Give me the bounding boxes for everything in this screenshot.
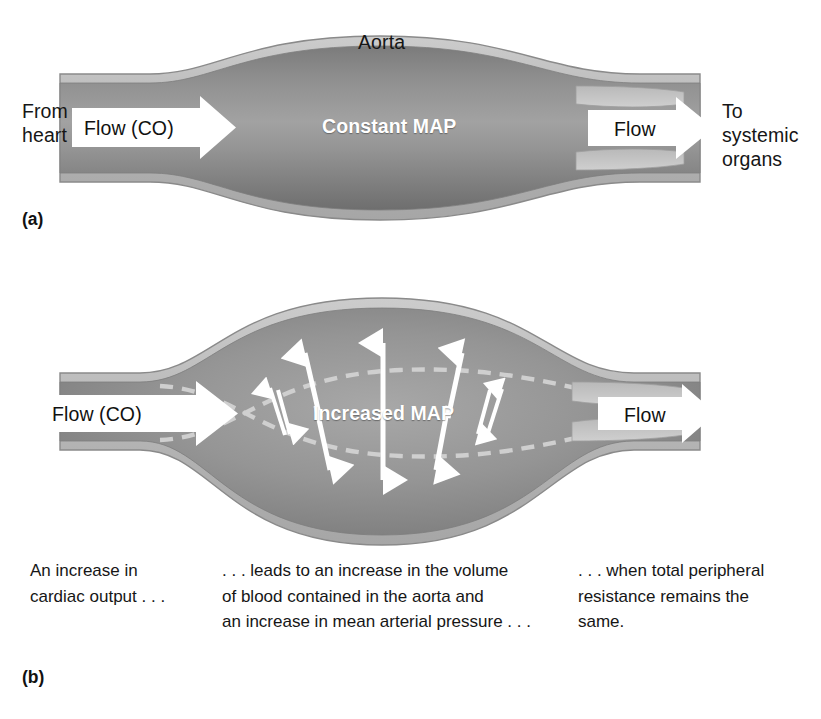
aorta-map-figure: Aorta From heart To systemic organs Flow… — [0, 0, 821, 719]
caption-column-3: . . . when total peripheral resistance r… — [578, 558, 818, 635]
figure-caption: An increase in cardiac output . . . . . … — [0, 558, 821, 653]
outlet-flow-label: Flow — [624, 403, 666, 427]
aorta-label: Aorta — [358, 30, 405, 54]
panel-a-baseline: Aorta From heart To systemic organs Flow… — [0, 0, 821, 255]
inlet-flow-label: Flow (CO) — [84, 116, 174, 140]
to-systemic-organs-label: To systemic organs — [722, 99, 799, 171]
part-letter-a: (a) — [22, 209, 43, 230]
panel-b-increased-co: Flow (CO) Flow Increased MAP — [0, 258, 821, 558]
increased-map-label: Increased MAP — [313, 401, 454, 425]
constant-map-label: Constant MAP — [322, 114, 456, 138]
outlet-flow-label: Flow — [614, 117, 656, 141]
caption-column-2: . . . leads to an increase in the volume… — [222, 558, 562, 635]
caption-column-1: An increase in cardiac output . . . — [30, 558, 220, 609]
part-letter-b: (b) — [22, 667, 44, 688]
from-heart-label: From heart — [22, 99, 68, 147]
inlet-flow-label: Flow (CO) — [52, 402, 142, 426]
